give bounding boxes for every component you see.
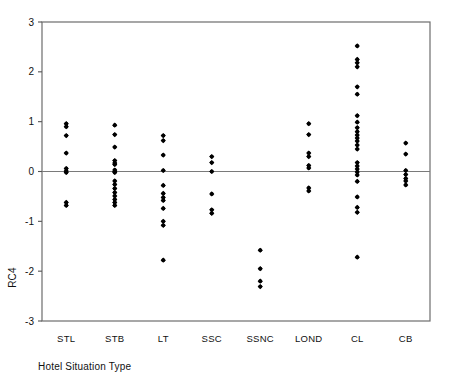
data-point-core [355, 195, 359, 199]
x-axis-tick-label: STL [57, 333, 75, 344]
data-point-core [258, 285, 262, 289]
data-point-core [210, 170, 214, 174]
y-axis-tick-label: 2 [28, 66, 34, 77]
data-point-core [258, 248, 262, 252]
data-point-core [113, 145, 117, 149]
data-point-core [113, 187, 117, 191]
data-point-core [113, 183, 117, 187]
data-point-core [355, 173, 359, 177]
data-point-core [307, 166, 311, 170]
y-axis-tick-label: 0 [28, 166, 34, 177]
data-point-core [404, 152, 408, 156]
data-point-core [355, 147, 359, 151]
data-point-core [64, 134, 68, 138]
data-point-core [210, 161, 214, 165]
data-point-core [64, 171, 68, 175]
y-axis-tick-label: 3 [28, 17, 34, 28]
data-point-core [64, 203, 68, 207]
data-point-core [404, 169, 408, 173]
x-axis-tick-label: SSNC [246, 333, 274, 344]
data-point-core [113, 171, 117, 175]
data-point-core [258, 267, 262, 271]
data-point-core [355, 92, 359, 96]
data-point-core [307, 122, 311, 126]
data-point-core [404, 173, 408, 177]
data-point-core [355, 255, 359, 259]
data-point-core [161, 169, 165, 173]
data-point-core [355, 61, 359, 65]
y-axis-tick-label: -1 [25, 216, 34, 227]
y-axis-tick-label: -3 [25, 316, 34, 327]
data-point-core [210, 155, 214, 159]
data-point-core [161, 153, 165, 157]
x-axis-tick-label: LOND [295, 333, 323, 344]
data-point-core [404, 183, 408, 187]
data-point-core [161, 223, 165, 227]
data-point-core [307, 189, 311, 193]
x-axis-tick-label: LT [158, 333, 169, 344]
data-point-core [161, 134, 165, 138]
data-point-core [355, 120, 359, 124]
data-point-core [113, 203, 117, 207]
x-axis-tick-label: SSC [202, 333, 222, 344]
data-point-core [161, 184, 165, 188]
data-point-core [355, 65, 359, 69]
data-point-core [355, 210, 359, 214]
data-point-core [113, 133, 117, 137]
data-point-core [161, 199, 165, 203]
data-point-core [161, 219, 165, 223]
data-point-core [355, 85, 359, 89]
x-axis-tick-label: CB [399, 333, 413, 344]
data-point-core [210, 192, 214, 196]
x-axis-tick-label: STB [105, 333, 124, 344]
data-point-core [355, 139, 359, 143]
data-point-core [355, 143, 359, 147]
plot-area: 3210-1-2-3STLSTBLTSSCSSNCLONDCLCB [0, 0, 451, 389]
data-point-core [161, 206, 165, 210]
data-point-core [355, 205, 359, 209]
data-point-core [161, 139, 165, 143]
data-point-core [404, 141, 408, 145]
data-point-core [307, 133, 311, 137]
y-axis-tick-label: 1 [28, 116, 34, 127]
data-point-core [355, 44, 359, 48]
data-point-core [113, 123, 117, 127]
data-point-core [355, 126, 359, 130]
data-point-core [64, 125, 68, 129]
data-point-core [258, 279, 262, 283]
x-axis-tick-label: CL [351, 333, 364, 344]
data-point-core [113, 163, 117, 167]
data-point-core [210, 211, 214, 215]
scatter-chart: RC4 Hotel Situation Type 3210-1-2-3STLST… [0, 0, 451, 389]
data-point-core [161, 258, 165, 262]
data-point-core [307, 155, 311, 159]
data-point-core [161, 192, 165, 196]
data-point-core [404, 179, 408, 183]
data-point-core [355, 180, 359, 184]
y-axis-tick-label: -2 [25, 266, 34, 277]
data-point-core [355, 114, 359, 118]
data-point-core [64, 151, 68, 155]
